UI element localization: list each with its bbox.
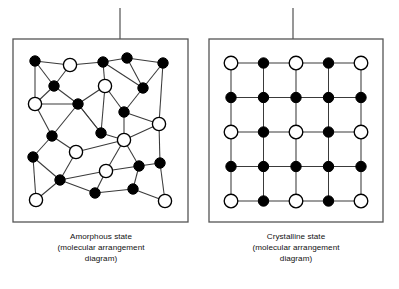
caption-crystalline-line-1: Crystalline state [207,231,385,242]
caption-crystalline-line-2: (molecular arrangement [207,242,385,253]
molecule-node-dark [323,161,333,171]
molecule-node-light [29,193,42,206]
molecule-node-light [224,56,238,70]
molecule-node-light [99,164,112,177]
molecule-node-dark [90,188,100,198]
molecule-node-dark [258,58,268,68]
molecule-node-light [354,56,368,70]
molecule-node-dark [119,107,129,117]
caption-amorphous-line-2: (molecular arrangement [12,242,190,253]
molecule-node-dark [258,127,268,137]
molecule-node-light [289,125,303,139]
panel-amorphous [13,8,188,222]
molecule-node-dark [96,128,106,138]
molecule-node-light [152,117,165,130]
molecule-node-dark [291,161,301,171]
molecule-node-dark [155,158,165,168]
molecule-node-light [289,194,303,208]
molecule-node-light [354,194,368,208]
molecule-node-light [224,194,238,208]
caption-amorphous-line-3: diagram) [12,253,190,264]
molecule-node-light [117,133,130,146]
molecule-node-dark [258,161,268,171]
molecule-node-light [224,125,238,139]
molecule-node-dark [323,92,333,102]
caption-crystalline-line-3: diagram) [207,253,385,264]
molecule-node-dark [47,131,57,141]
molecule-node-light [158,194,171,207]
molecule-node-light [63,58,76,71]
molecule-node-dark [138,83,148,93]
molecule-node-dark [323,127,333,137]
caption-amorphous-line-1: Amorphous state [12,231,190,242]
molecule-node-dark [55,175,65,185]
molecule-node-dark [128,184,138,194]
molecule-node-light [28,97,41,110]
molecule-node-dark [28,152,38,162]
caption-crystalline: Crystalline state (molecular arrangement… [207,231,385,265]
molecule-node-dark [122,53,132,63]
molecule-node-dark [226,161,236,171]
molecule-node-dark [98,57,108,67]
caption-amorphous: Amorphous state (molecular arrangement d… [12,231,190,265]
panel-crystalline [209,8,383,222]
molecule-node-light [69,145,82,158]
molecule-node-dark [73,99,83,109]
molecule-node-dark [158,58,168,68]
molecule-node-light [98,79,111,92]
molecule-node-light [354,125,368,139]
molecular-arrangement-figure: Amorphous state (molecular arrangement d… [0,0,399,289]
molecule-node-dark [291,92,301,102]
molecule-node-dark [323,58,333,68]
molecule-node-dark [134,161,144,171]
molecule-node-dark [323,196,333,206]
molecule-node-light [289,56,303,70]
molecule-node-dark [226,92,236,102]
molecule-node-dark [30,56,40,66]
molecule-node-dark [258,196,268,206]
molecule-node-dark [258,92,268,102]
molecule-node-dark [356,161,366,171]
molecule-node-dark [356,92,366,102]
molecule-node-dark [49,81,59,91]
